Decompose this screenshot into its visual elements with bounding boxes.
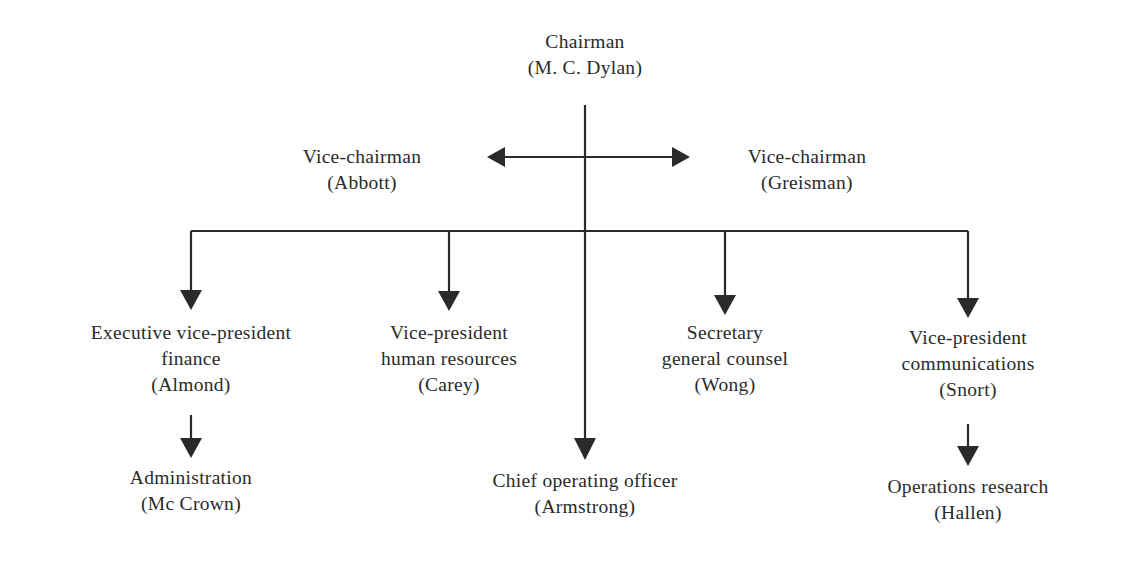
node-name: (Almond)	[91, 372, 292, 398]
node-title: Secretary	[662, 320, 788, 346]
node-title: Chief operating officer	[492, 468, 677, 494]
node-name: (Armstrong)	[492, 494, 677, 520]
node-name: (Greisman)	[748, 170, 867, 196]
node-title: Vice-chairman	[303, 144, 422, 170]
node-name: (Mc Crown)	[130, 491, 252, 517]
node-title: Administration	[130, 465, 252, 491]
arrow-down-icon	[574, 438, 596, 460]
node-vp-communications: Vice-president communications (Snort)	[901, 325, 1034, 403]
node-title: finance	[91, 346, 292, 372]
node-administration: Administration (Mc Crown)	[130, 465, 252, 517]
node-title: Chairman	[528, 29, 642, 55]
node-evp-finance: Executive vice-president finance (Almond…	[91, 320, 292, 398]
node-title: Vice-president	[381, 320, 517, 346]
node-name: (Wong)	[662, 372, 788, 398]
node-title: Vice-president	[901, 325, 1034, 351]
node-chairman: Chairman (M. C. Dylan)	[528, 29, 642, 81]
arrow-down-icon	[180, 438, 202, 458]
arrow-down-icon	[180, 290, 202, 310]
node-name: (Abbott)	[303, 170, 422, 196]
arrow-down-icon	[438, 291, 460, 311]
node-vice-chairman-left: Vice-chairman (Abbott)	[303, 144, 422, 196]
arrow-right-icon	[672, 147, 690, 167]
arrow-left-icon	[487, 147, 505, 167]
node-name: (Hallen)	[887, 500, 1048, 526]
node-name: (Carey)	[381, 372, 517, 398]
node-title: Operations research	[887, 474, 1048, 500]
node-title: human resources	[381, 346, 517, 372]
arrow-down-icon	[957, 298, 979, 318]
node-name: (M. C. Dylan)	[528, 55, 642, 81]
node-title: Executive vice-president	[91, 320, 292, 346]
arrow-down-icon	[714, 295, 736, 315]
node-operations-research: Operations research (Hallen)	[887, 474, 1048, 526]
node-vice-chairman-right: Vice-chairman (Greisman)	[748, 144, 867, 196]
node-title: Vice-chairman	[748, 144, 867, 170]
node-vp-hr: Vice-president human resources (Carey)	[381, 320, 517, 398]
arrow-down-icon	[957, 446, 979, 466]
node-coo: Chief operating officer (Armstrong)	[492, 468, 677, 520]
node-name: (Snort)	[901, 377, 1034, 403]
node-title: communications	[901, 351, 1034, 377]
node-title: general counsel	[662, 346, 788, 372]
node-secretary: Secretary general counsel (Wong)	[662, 320, 788, 398]
